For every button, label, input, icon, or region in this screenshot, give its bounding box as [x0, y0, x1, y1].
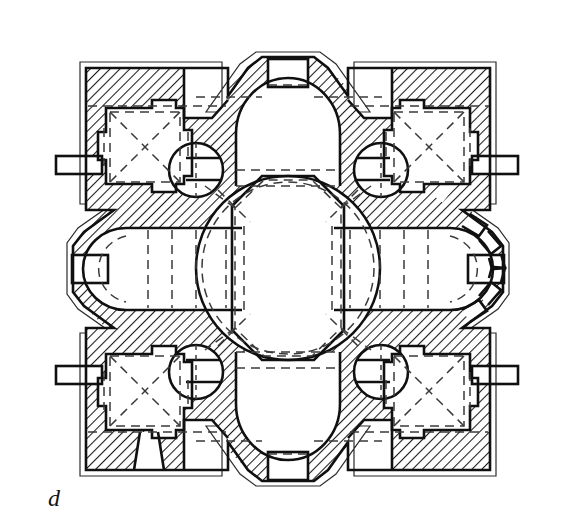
floor-plan-drawing: [0, 0, 574, 532]
figure-root: d: [0, 0, 574, 532]
figure-label: d: [48, 485, 61, 512]
